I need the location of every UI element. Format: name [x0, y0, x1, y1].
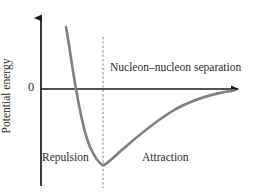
attraction-region-label: Attraction	[142, 152, 189, 164]
x-axis-label: Nucleon–nucleon separation	[110, 62, 241, 74]
repulsion-region-label: Repulsion	[42, 152, 89, 164]
nuclear-potential-diagram: Potential energy 0 Nucleon–nucleon separ…	[0, 0, 253, 195]
y-axis-label-text: Potential energy	[1, 59, 13, 134]
y-axis-label: Potential energy	[0, 56, 14, 136]
potential-energy-curve	[66, 27, 234, 166]
zero-tick-label: 0	[28, 81, 34, 94]
potential-energy-plot	[0, 0, 253, 195]
